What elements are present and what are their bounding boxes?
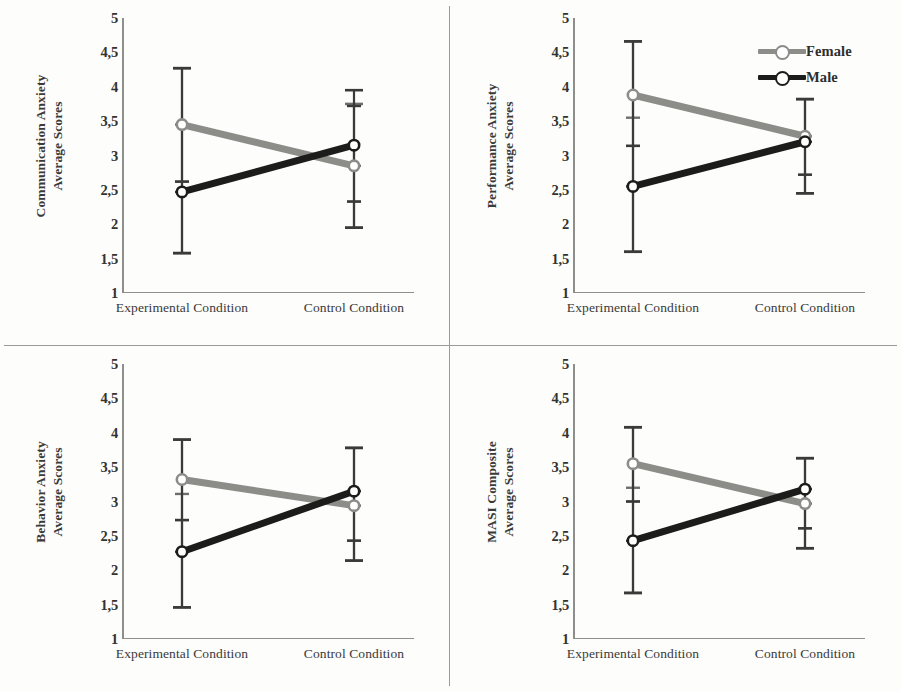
series-layer xyxy=(122,18,414,293)
y-axis-title-line1: Performance Anxiety xyxy=(484,84,501,208)
x-tick-label: Experimental Condition xyxy=(553,299,713,317)
y-axis-title: MASI Composite Average Scores xyxy=(481,374,521,610)
data-point-marker xyxy=(177,187,187,197)
legend-label-male: Male xyxy=(806,69,838,86)
y-tick-label: 4 xyxy=(111,424,118,441)
series-layer xyxy=(122,364,414,639)
data-point-marker xyxy=(349,500,359,510)
legend-label-female: Female xyxy=(806,43,852,60)
y-tick-label: 4 xyxy=(562,424,569,441)
y-tick-label: 2 xyxy=(562,562,569,579)
y-tick-label: 4,5 xyxy=(100,44,118,61)
data-point-marker xyxy=(349,486,359,496)
plot-area xyxy=(122,364,414,639)
y-tick-label: 4,5 xyxy=(551,44,569,61)
y-tick-label: 2 xyxy=(111,562,118,579)
data-point-marker xyxy=(349,140,359,150)
y-tick-label: 1,5 xyxy=(100,596,118,613)
data-point-marker xyxy=(800,484,810,494)
plot-area xyxy=(122,18,414,293)
y-tick-label: 3 xyxy=(111,147,118,164)
y-tick-label: 5 xyxy=(562,356,569,373)
y-tick-label: 4 xyxy=(111,78,118,95)
legend-item-male[interactable]: Male xyxy=(758,64,893,90)
y-tick-label: 2,5 xyxy=(551,181,569,198)
y-axis-title-line1: MASI Composite xyxy=(484,441,501,543)
data-point-marker xyxy=(628,458,638,468)
y-tick-label: 5 xyxy=(562,10,569,27)
y-tick-label: 4,5 xyxy=(551,390,569,407)
x-axis-ticks: Experimental ConditionControl Condition xyxy=(122,299,414,345)
legend: Female Male xyxy=(758,38,893,90)
y-tick-label: 1,5 xyxy=(100,250,118,267)
y-tick-label: 3 xyxy=(562,493,569,510)
y-tick-label: 2,5 xyxy=(100,181,118,198)
y-tick-label: 3,5 xyxy=(100,113,118,130)
y-tick-label: 4 xyxy=(562,78,569,95)
y-tick-label: 3 xyxy=(111,493,118,510)
error-bar xyxy=(173,440,191,608)
y-tick-label: 1,5 xyxy=(551,596,569,613)
data-point-marker xyxy=(628,90,638,100)
series-line xyxy=(182,145,354,192)
x-tick-label: Experimental Condition xyxy=(102,299,262,317)
series-line xyxy=(182,491,354,552)
series-line xyxy=(633,489,805,541)
x-tick-label: Experimental Condition xyxy=(102,645,262,663)
data-point-marker xyxy=(628,181,638,191)
y-axis-title: Performance Anxiety Average Scores xyxy=(481,28,521,264)
y-tick-label: 5 xyxy=(111,356,118,373)
series-line xyxy=(633,95,805,136)
y-tick-label: 5 xyxy=(111,10,118,27)
data-point-marker xyxy=(800,498,810,508)
y-tick-label: 3,5 xyxy=(551,113,569,130)
data-point-marker xyxy=(177,119,187,129)
y-axis-title: Communication Anxiety Average Scores xyxy=(30,28,70,264)
x-axis-ticks: Experimental ConditionControl Condition xyxy=(122,645,414,691)
y-tick-label: 1,5 xyxy=(551,250,569,267)
data-point-marker xyxy=(177,546,187,556)
panel-behavior-anxiety: Behavior Anxiety Average Scores 54,543,5… xyxy=(0,346,450,692)
y-tick-label: 3,5 xyxy=(100,459,118,476)
error-bar xyxy=(624,41,642,251)
x-tick-label: Control Condition xyxy=(725,299,885,317)
x-tick-label: Control Condition xyxy=(274,299,434,317)
panel-masi-composite: MASI Composite Average Scores 54,543,532… xyxy=(451,346,901,692)
x-axis-ticks: Experimental ConditionControl Condition xyxy=(573,645,865,691)
y-tick-label: 3,5 xyxy=(551,459,569,476)
error-bar xyxy=(624,427,642,593)
y-axis-ticks: 54,543,532,521,51 xyxy=(527,18,569,293)
data-point-marker xyxy=(628,535,638,545)
data-point-marker xyxy=(800,137,810,147)
y-tick-label: 3 xyxy=(562,147,569,164)
y-axis-title-line1: Communication Anxiety xyxy=(33,75,50,218)
y-axis-ticks: 54,543,532,521,51 xyxy=(76,18,118,293)
y-tick-label: 2 xyxy=(562,216,569,233)
y-axis-ticks: 54,543,532,521,51 xyxy=(527,364,569,639)
y-tick-label: 2,5 xyxy=(100,527,118,544)
y-axis-title: Behavior Anxiety Average Scores xyxy=(30,374,70,610)
y-axis-title-line2: Average Scores xyxy=(501,448,518,537)
plot-area xyxy=(573,364,865,639)
y-axis-ticks: 54,543,532,521,51 xyxy=(76,364,118,639)
series-line xyxy=(182,125,354,166)
x-tick-label: Control Condition xyxy=(274,645,434,663)
series-layer xyxy=(573,364,865,639)
x-tick-label: Control Condition xyxy=(725,645,885,663)
y-axis-title-line1: Behavior Anxiety xyxy=(33,441,50,542)
data-point-marker xyxy=(349,161,359,171)
panel-communication-anxiety: Communication Anxiety Average Scores 54,… xyxy=(0,0,450,346)
y-tick-label: 4,5 xyxy=(100,390,118,407)
x-tick-label: Experimental Condition xyxy=(553,645,713,663)
y-axis-title-line2: Average Scores xyxy=(501,102,518,191)
y-axis-title-line2: Average Scores xyxy=(50,102,67,191)
legend-item-female[interactable]: Female xyxy=(758,38,893,64)
data-point-marker xyxy=(177,474,187,484)
x-axis-ticks: Experimental ConditionControl Condition xyxy=(573,299,865,345)
y-tick-label: 2 xyxy=(111,216,118,233)
y-axis-title-line2: Average Scores xyxy=(50,448,67,537)
panel-performance-anxiety: Performance Anxiety Average Scores 54,54… xyxy=(451,0,901,346)
legend-marker-male-icon xyxy=(758,70,806,84)
error-bar xyxy=(173,68,191,253)
legend-marker-female-icon xyxy=(758,44,806,58)
